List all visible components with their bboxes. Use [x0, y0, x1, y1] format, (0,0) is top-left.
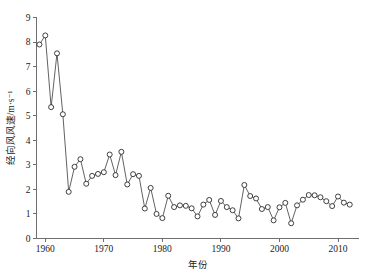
data-series-meridional-wind-speed: [37, 33, 352, 226]
data-point: [172, 205, 177, 210]
x-tick-label: 1970: [94, 244, 113, 254]
data-point: [289, 221, 294, 226]
data-point: [90, 173, 95, 178]
x-tick-label: 2010: [329, 244, 348, 254]
data-point: [131, 172, 136, 177]
data-point: [324, 199, 329, 204]
data-point: [300, 197, 305, 202]
data-point: [230, 208, 235, 213]
data-point: [95, 171, 100, 176]
y-tick-label: 8: [26, 37, 31, 47]
y-tick-label: 1: [26, 209, 31, 219]
data-point: [60, 112, 65, 117]
y-axis-title: 经向风风速/m·s⁻¹: [5, 90, 16, 165]
data-point: [201, 202, 206, 207]
data-point: [78, 157, 83, 162]
data-point: [318, 195, 323, 200]
series-polyline: [39, 35, 349, 223]
line-chart: 0123456789 196019701980199020002010 年份经向…: [0, 0, 367, 275]
data-point: [242, 182, 247, 187]
data-point: [218, 198, 223, 203]
data-point: [207, 197, 212, 202]
data-point: [312, 193, 317, 198]
y-tick-label: 0: [26, 234, 31, 244]
x-axis: 196019701980199020002010: [36, 239, 359, 255]
x-axis-title: 年份: [188, 259, 208, 270]
data-point: [254, 196, 259, 201]
data-point: [306, 193, 311, 198]
data-point: [142, 206, 147, 211]
data-point: [125, 182, 130, 187]
data-point: [72, 164, 77, 169]
data-point: [37, 42, 42, 47]
data-point: [119, 149, 124, 154]
data-point: [248, 194, 253, 199]
x-tick-label: 1980: [153, 244, 172, 254]
data-point: [259, 207, 264, 212]
data-point: [101, 170, 106, 175]
data-point: [330, 204, 335, 209]
data-point: [195, 214, 200, 219]
data-point: [189, 206, 194, 211]
data-point: [177, 203, 182, 208]
data-point: [271, 218, 276, 223]
data-point: [347, 202, 352, 207]
data-point: [107, 152, 112, 157]
data-point: [84, 181, 89, 186]
data-point: [154, 211, 159, 216]
y-tick-label: 5: [26, 111, 31, 121]
x-tick-label: 1960: [36, 244, 55, 254]
data-point: [336, 194, 341, 199]
data-point: [136, 173, 141, 178]
data-point: [160, 216, 165, 221]
data-point: [49, 105, 54, 110]
data-point: [295, 203, 300, 208]
y-tick-label: 2: [26, 185, 31, 195]
data-point: [283, 200, 288, 205]
data-point: [236, 216, 241, 221]
data-point: [113, 173, 118, 178]
y-tick-label: 4: [26, 136, 31, 146]
data-point: [265, 205, 270, 210]
y-tick-label: 6: [26, 87, 31, 97]
x-tick-label: 2000: [270, 244, 289, 254]
data-point: [43, 33, 48, 38]
data-point: [341, 200, 346, 205]
data-point: [277, 205, 282, 210]
data-point: [66, 189, 71, 194]
data-point: [183, 203, 188, 208]
x-tick-label: 1990: [211, 244, 230, 254]
chart-figure: 0123456789 196019701980199020002010 年份经向…: [0, 0, 367, 275]
data-point: [224, 205, 229, 210]
y-axis: 0123456789: [26, 13, 37, 244]
data-point: [166, 193, 171, 198]
data-point: [148, 185, 153, 190]
data-point: [213, 212, 218, 217]
y-tick-label: 3: [26, 160, 31, 170]
data-point: [54, 51, 59, 56]
y-tick-label: 7: [26, 62, 31, 72]
y-tick-label: 9: [26, 13, 31, 23]
